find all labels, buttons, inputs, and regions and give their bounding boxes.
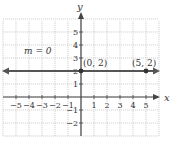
x-tick-label: 2: [104, 101, 109, 110]
axes: [3, 12, 160, 136]
y-axis-label: y: [76, 1, 83, 12]
y-tick-label: −2: [66, 119, 78, 128]
x-tick-label: 4: [130, 101, 135, 110]
slope-annotation: m = 0: [24, 46, 52, 56]
x-tick-label: −5: [10, 101, 22, 110]
tick-labels: −5−4−3−2−112345−2−112345: [10, 28, 148, 128]
x-axis-label: x: [164, 92, 170, 103]
x-tick-label: −3: [36, 101, 48, 110]
point-label-5-2: (5, 2): [132, 58, 156, 68]
y-tick-label: 5: [73, 28, 78, 37]
x-tick-label: 1: [91, 101, 96, 110]
y-tick-label: 4: [73, 41, 78, 50]
y-tick-label: −1: [66, 106, 78, 115]
x-tick-label: 3: [117, 101, 122, 110]
y-tick-label: 3: [73, 54, 78, 63]
data-point: [79, 69, 84, 74]
y-tick-label: 1: [73, 80, 78, 89]
x-tick-label: −4: [23, 101, 35, 110]
data-point: [144, 69, 149, 74]
coordinate-plane: −5−4−3−2−112345−2−112345 x y m = 0 (0, 2…: [0, 0, 176, 150]
x-tick-label: −2: [49, 101, 61, 110]
y-axis-arrow-icon: [78, 12, 84, 19]
x-tick-label: 5: [143, 101, 148, 110]
point-label-0-2: (0, 2): [83, 58, 107, 68]
